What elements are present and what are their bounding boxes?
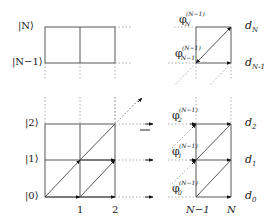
diagram-lines <box>0 0 270 223</box>
col-tick-1: 1 <box>77 205 83 215</box>
right-bottom-grid <box>196 124 231 197</box>
phi-label-2: φ (N−1) 2 <box>172 110 180 121</box>
d-label-N: dN <box>245 20 258 34</box>
lattice-diagram: |N⟩ |N−1⟩ |2⟩ |1⟩ |0⟩ 1 2 N−1 N dN dN-1 … <box>0 0 270 223</box>
d-label-0: d0 <box>245 190 257 204</box>
d-label-1: d1 <box>245 154 257 168</box>
left-bottom-dotted <box>115 100 150 197</box>
phi-label-N: φ (N−1) N <box>179 14 187 25</box>
left-top-dotted <box>45 27 132 124</box>
middle-arrows <box>138 98 150 130</box>
phi-label-N-minus-1: φ (N−1) N−1 <box>175 48 183 59</box>
phi-label-1: φ (N−1) 1 <box>172 146 180 157</box>
row-label-0: |0⟩ <box>25 191 39 201</box>
left-top-grid <box>45 27 115 63</box>
col-tick-N-minus-1: N−1 <box>186 205 210 215</box>
row-label-N-minus-1: |N−1⟩ <box>12 57 43 67</box>
col-tick-N: N <box>227 205 236 215</box>
col-tick-2: 2 <box>112 205 118 215</box>
phi-label-0: φ (N−1) 0 <box>172 183 180 194</box>
row-label-1: |1⟩ <box>25 154 39 164</box>
right-bottom-arrows <box>196 124 231 197</box>
right-top-arrows <box>196 27 231 63</box>
row-label-2: |2⟩ <box>25 118 39 128</box>
row-label-N: |N⟩ <box>18 21 34 31</box>
left-bottom-dotted-arrowheads <box>145 124 153 197</box>
d-label-2: d2 <box>245 117 257 131</box>
d-label-N-minus-1: dN-1 <box>245 57 265 71</box>
